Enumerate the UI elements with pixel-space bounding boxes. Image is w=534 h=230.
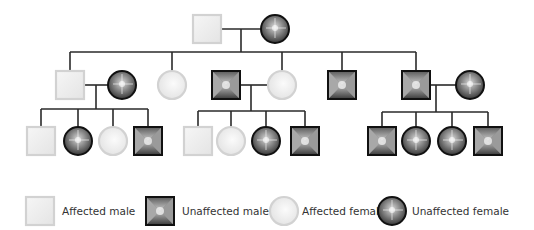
legend: Affected maleUnaffected maleAffected fem… <box>26 197 509 225</box>
affected-male-symbol <box>184 127 212 155</box>
legend-item-unaffected-female: Unaffected female <box>378 197 509 225</box>
unaffected-male-symbol <box>474 127 502 155</box>
legend-affected-female-icon <box>270 197 298 225</box>
pedigree-chart: Affected maleUnaffected maleAffected fem… <box>0 0 534 230</box>
unaffected-female-symbol <box>64 127 92 155</box>
affected-female-symbol <box>217 127 245 155</box>
unaffected-female-symbol <box>438 127 466 155</box>
legend-label: Unaffected female <box>412 205 509 217</box>
affected-female-symbol <box>158 71 186 99</box>
unaffected-female-symbol <box>108 71 136 99</box>
unaffected-male-symbol <box>291 127 319 155</box>
affected-female-symbol <box>99 127 127 155</box>
affected-female-symbol <box>268 71 296 99</box>
legend-item-affected-female: Affected female <box>270 197 385 225</box>
legend-item-unaffected-male: Unaffected male <box>146 197 269 225</box>
affected-male-symbol <box>193 15 221 43</box>
legend-label: Affected male <box>62 205 135 217</box>
unaffected-male-symbol <box>402 71 430 99</box>
legend-label: Affected female <box>302 205 385 217</box>
unaffected-female-symbol <box>456 71 484 99</box>
legend-item-affected-male: Affected male <box>26 197 135 225</box>
legend-affected-male-icon <box>26 197 54 225</box>
unaffected-male-symbol <box>328 71 356 99</box>
affected-male-symbol <box>27 127 55 155</box>
unaffected-female-symbol <box>402 127 430 155</box>
unaffected-female-symbol <box>252 127 280 155</box>
affected-male-symbol <box>56 71 84 99</box>
unaffected-male-symbol <box>368 127 396 155</box>
unaffected-male-symbol <box>134 127 162 155</box>
legend-label: Unaffected male <box>182 205 269 217</box>
unaffected-female-symbol <box>261 15 289 43</box>
unaffected-male-symbol <box>212 71 240 99</box>
legend-unaffected-female-icon <box>378 197 406 225</box>
legend-unaffected-male-icon <box>146 197 174 225</box>
